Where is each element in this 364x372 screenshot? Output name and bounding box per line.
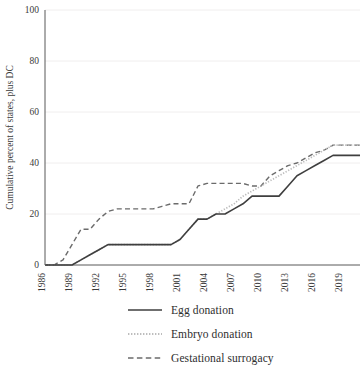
x-tick-label: 2007 [226,273,236,292]
y-tick-label: 40 [30,158,40,168]
legend-item-gestational-surrogacy: Gestational surrogacy [0,346,364,370]
chart-legend: Egg donation Embryo donation Gestational… [0,298,364,372]
solid-line-swatch-icon [128,304,162,316]
dotted-line-swatch-icon [128,328,162,340]
y-axis-ticks: 020406080100 [25,5,40,270]
x-tick-label: 2019 [334,273,344,292]
x-tick-label: 1989 [64,273,74,292]
dashed-line-swatch-icon [128,352,162,364]
legend-item-embryo-donation: Embryo donation [0,322,364,346]
y-tick-label: 20 [30,209,40,219]
figure-container: 020406080100 198619891992199519982001200… [0,0,364,372]
y-tick-label: 100 [25,5,40,15]
y-axis-label: Cumulative percent of states, plus DC [5,65,15,210]
x-tick-label: 2004 [199,273,209,292]
x-tick-label: 1986 [37,273,47,292]
gridlines [45,10,360,214]
legend-label-gestational-surrogacy: Gestational surrogacy [171,352,274,364]
y-tick-label: 0 [34,260,39,270]
y-tick-label: 60 [30,107,40,117]
x-tick-label: 2016 [307,273,317,292]
x-tick-label: 1992 [91,273,101,292]
y-tick-label: 80 [30,56,40,66]
legend-label-embryo-donation: Embryo donation [171,328,253,340]
legend-label-egg-donation: Egg donation [171,304,234,316]
x-tick-label: 1995 [118,273,128,292]
x-tick-label: 2013 [280,273,290,292]
x-axis-ticks: 1986198919921995199820012004200720102013… [37,273,344,292]
line-chart: 020406080100 198619891992199519982001200… [0,0,364,300]
x-tick-label: 2010 [253,273,263,292]
x-tick-label: 2001 [172,273,182,292]
x-tick-label: 1998 [145,273,155,292]
legend-item-egg-donation: Egg donation [0,298,364,322]
plot-area: 020406080100 198619891992199519982001200… [0,0,364,300]
series-line-egg-donation [45,155,360,265]
